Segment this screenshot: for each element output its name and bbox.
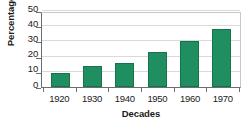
x-axis-tick-mark: [206, 88, 207, 92]
y-axis-tick-mark: [36, 88, 41, 89]
x-axis-tick-mark: [76, 88, 77, 92]
bar-slot: [76, 13, 108, 87]
x-axis-tick-label: 1940: [108, 93, 141, 106]
x-axis-tick-label: 1970: [206, 93, 239, 106]
x-axis-tick-label: 1960: [174, 93, 207, 106]
y-axis-tick-label: 10: [17, 64, 38, 73]
bar: [115, 63, 134, 87]
x-axis-tick-mark: [43, 88, 44, 92]
bar-slot: [173, 13, 205, 87]
bar-slot: [44, 13, 76, 87]
bars-container: [42, 13, 240, 87]
y-axis-tick-labels: 01020304050: [17, 8, 38, 90]
bar-slot: [109, 13, 141, 87]
plot-area: [41, 12, 241, 88]
x-axis-tick-label: 1950: [141, 93, 174, 106]
y-axis-tick-label: 0: [17, 80, 38, 89]
x-axis-tick-mark: [141, 88, 142, 92]
x-axis-tick-mark: [174, 88, 175, 92]
y-axis-tick-label: 20: [17, 49, 38, 58]
bar: [51, 73, 70, 87]
bar: [212, 29, 231, 87]
gridline: [42, 10, 240, 11]
y-axis-tick-label: 30: [17, 34, 38, 43]
x-axis-tick-labels: 192019301940195019601970: [41, 93, 241, 106]
bar-slot: [206, 13, 238, 87]
bar: [83, 66, 102, 87]
x-axis-title: Decades: [41, 108, 241, 119]
x-axis-tick-label: 1930: [76, 93, 109, 106]
bar: [180, 41, 199, 87]
x-axis-tick-mark: [108, 88, 109, 92]
bar-chart: Percentage 01020304050 19201930194019501…: [0, 0, 247, 125]
x-axis-tick-mark: [239, 88, 240, 92]
bar: [148, 52, 167, 87]
y-axis-tick-label: 50: [17, 4, 38, 13]
y-axis-tick-label: 40: [17, 19, 38, 28]
bar-slot: [141, 13, 173, 87]
x-axis-tick-label: 1920: [43, 93, 76, 106]
